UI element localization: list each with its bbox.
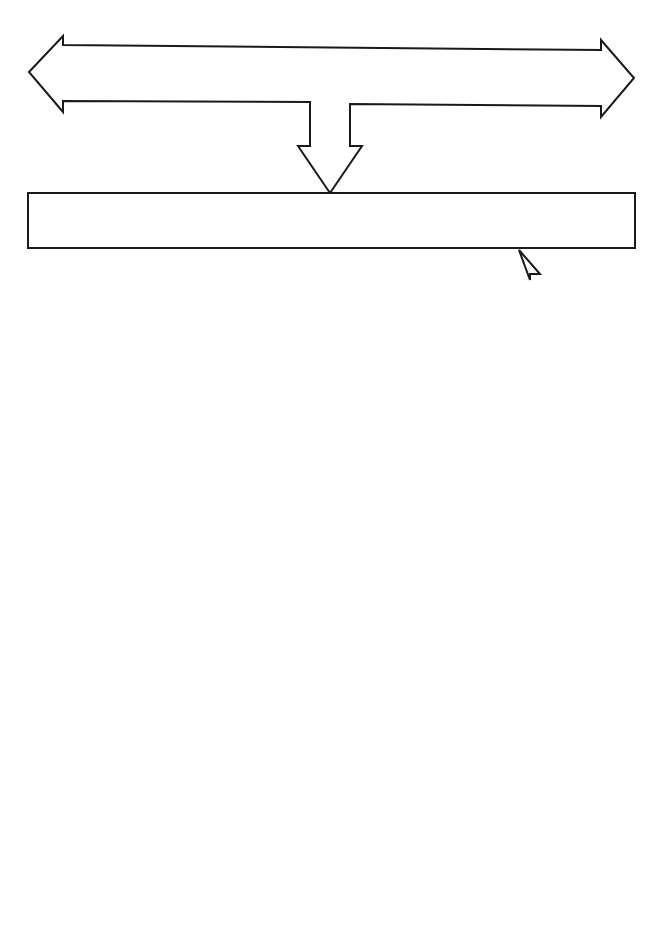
interface-controller-bus [519,250,540,280]
interface-dma-controller-block [28,193,635,248]
system-bus [29,36,634,193]
memory-controller-block-diagram [0,0,645,936]
